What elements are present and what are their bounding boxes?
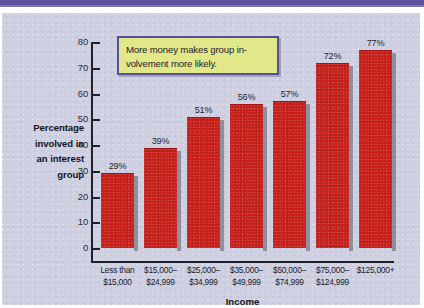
y-axis-tick <box>93 145 100 147</box>
callout-box: More money makes group in-volvement more… <box>117 36 279 75</box>
y-axis-tick <box>93 94 100 96</box>
y-axis-tick-label-text: 10 <box>66 216 88 227</box>
x-axis-category-label-line: Less than <box>93 265 142 277</box>
bar-shadow <box>134 176 138 251</box>
y-axis-tick-label-text: 80 <box>66 36 88 47</box>
bar-value-label: 77% <box>351 38 400 48</box>
y-axis-tick-label-text: 60 <box>66 88 88 99</box>
x-axis-category-label-line: $25,000– <box>179 265 228 277</box>
x-axis-category-label-line: $35,000– <box>222 265 271 277</box>
x-axis-category-label: Less than$15,000 <box>93 265 142 288</box>
bar-shadow <box>263 107 267 251</box>
y-axis-line <box>91 42 93 263</box>
bar-value-label: 57% <box>265 89 314 99</box>
y-axis-tick <box>93 248 100 250</box>
bar <box>101 173 134 248</box>
x-axis-category-label-line: $50,000– <box>265 265 314 277</box>
y-axis-title-line: an interest <box>8 151 84 167</box>
bar-shadow <box>306 104 310 251</box>
x-axis-category-label-line: $15,000– <box>136 265 185 277</box>
bar-value-label: 39% <box>136 136 185 146</box>
y-axis-tick-label-text: 0 <box>66 242 88 253</box>
bar-value-label: 29% <box>93 161 142 171</box>
x-axis-category-label: $75,000–$124,999 <box>308 265 357 288</box>
top-accent-band-shade <box>0 5 424 7</box>
y-axis-title-line: group <box>8 167 84 183</box>
x-axis-line <box>91 261 394 263</box>
x-axis-category-label-line: $15,000 <box>93 277 142 289</box>
bar-shadow <box>349 66 353 251</box>
bar <box>187 117 220 248</box>
bar-value-label: 72% <box>308 51 357 61</box>
x-axis-category-label-line: $24,999 <box>136 277 185 289</box>
y-axis-tick <box>93 222 100 224</box>
y-axis-tick-label: 80 <box>64 36 88 47</box>
y-axis-tick-label-text: 20 <box>66 191 88 202</box>
bar-shadow <box>392 53 396 251</box>
y-axis-tick <box>93 197 100 199</box>
y-axis-tick-label: 70 <box>64 62 88 73</box>
y-axis-tick-label: 0 <box>64 242 88 253</box>
y-axis-tick <box>93 42 100 44</box>
y-axis-title: Percentageinvolved inan interestgroup <box>8 120 84 182</box>
bar <box>359 50 392 248</box>
x-axis-category-label: $25,000–$34,999 <box>179 265 228 288</box>
y-axis-tick <box>93 119 100 121</box>
bar-shadow <box>220 120 224 251</box>
x-axis-title: Income <box>91 296 394 307</box>
bar <box>273 101 306 248</box>
y-axis-tick-label: 60 <box>64 88 88 99</box>
x-axis-category-label: $125,000+ <box>351 265 400 277</box>
y-axis-tick <box>93 68 100 70</box>
x-axis-category-label: $50,000–$74,999 <box>265 265 314 288</box>
bar-value-label: 56% <box>222 92 271 102</box>
bar-shadow <box>177 151 181 251</box>
bar-value-label: 51% <box>179 105 228 115</box>
x-axis-category-label: $15,000–$24,999 <box>136 265 185 288</box>
x-axis-category-label-line: $124,999 <box>308 277 357 289</box>
plot-panel: 01020304050607080 29%39%51%56%57%72%77% … <box>2 13 420 305</box>
y-axis-tick-label-text: 70 <box>66 62 88 73</box>
callout-text: More money makes group in-volvement more… <box>126 43 276 70</box>
x-axis-category-label-line: $49,999 <box>222 277 271 289</box>
y-axis-title-line: involved in <box>8 136 84 152</box>
y-axis-title-line: Percentage <box>8 120 84 136</box>
y-axis-tick-label: 20 <box>64 191 88 202</box>
x-axis-category-label-line: $74,999 <box>265 277 314 289</box>
chart-figure: 01020304050607080 29%39%51%56%57%72%77% … <box>0 0 424 308</box>
x-axis-category-label-line: $75,000– <box>308 265 357 277</box>
x-axis-category-label: $35,000–$49,999 <box>222 265 271 288</box>
y-axis-tick-label: 10 <box>64 216 88 227</box>
bar <box>316 63 349 248</box>
bar <box>144 148 177 248</box>
x-axis-category-label-line: $125,000+ <box>351 265 400 277</box>
x-axis-category-label-line: $34,999 <box>179 277 228 289</box>
bar <box>230 104 263 248</box>
